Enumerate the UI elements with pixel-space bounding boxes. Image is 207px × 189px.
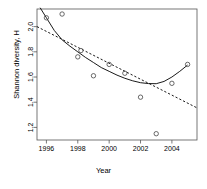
x-tick-label: 2002 — [133, 145, 149, 152]
data-point-marker — [60, 12, 64, 16]
plot-frame — [37, 9, 197, 140]
chart-figure: 1.21.41.61.82.0 19961998200020022004 Sha… — [0, 0, 207, 189]
trend-line-smoothed-trend — [40, 8, 187, 84]
x-tick-label: 2004 — [164, 145, 180, 152]
data-point-marker — [91, 74, 95, 78]
data-point-marker — [76, 55, 80, 59]
data-point-marker — [154, 132, 158, 136]
data-points — [44, 12, 190, 136]
y-axis-ticks: 1.21.41.61.82.0 — [28, 22, 38, 133]
data-point-marker — [170, 81, 174, 85]
x-axis-ticks: 19961998200020022004 — [39, 140, 180, 152]
data-point-marker — [138, 95, 142, 99]
data-point-marker — [79, 48, 83, 52]
y-tick-label: 1.2 — [28, 122, 35, 132]
y-tick-label: 1.8 — [28, 47, 35, 57]
x-tick-label: 2000 — [101, 145, 117, 152]
x-axis-label: Year — [0, 166, 207, 175]
scatter-plot-canvas: 1.21.41.61.82.0 19961998200020022004 — [0, 0, 207, 189]
y-tick-label: 2.0 — [28, 22, 35, 32]
trend-lines — [37, 8, 197, 108]
data-point-marker — [185, 62, 189, 66]
y-tick-label: 1.4 — [28, 97, 35, 107]
x-tick-label: 1998 — [70, 145, 86, 152]
y-axis-label: Shannon diversity, H — [12, 5, 21, 125]
x-tick-label: 1996 — [39, 145, 55, 152]
plot-border — [37, 9, 197, 140]
trend-line-linear-regression — [37, 27, 197, 108]
y-tick-label: 1.6 — [28, 72, 35, 82]
